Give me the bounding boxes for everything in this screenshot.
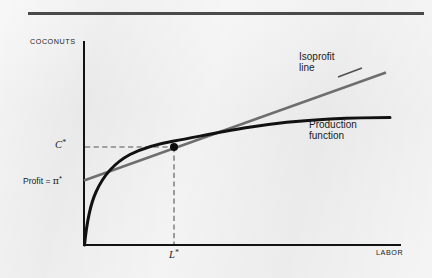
isoprofit-label-leader <box>338 68 362 77</box>
profit-intercept-label: Profit = π* <box>23 175 62 186</box>
profit-star-glyph: * <box>59 174 62 183</box>
profit-prefix-text: Profit = <box>23 176 53 186</box>
optimum-point-marker <box>170 143 178 151</box>
isoprofit-line-label-row1: Isoprofit <box>299 51 335 62</box>
production-function-label-row2: function <box>309 130 357 141</box>
y-axis-tick-label-cstar: C* <box>55 139 66 151</box>
lstar-star-glyph: * <box>175 248 179 257</box>
cstar-letter: C <box>55 139 62 150</box>
production-function-label: Production function <box>309 119 357 141</box>
x-axis-tick-label-lstar: L* <box>169 249 179 261</box>
isoprofit-line-label: Isoprofit line <box>299 51 335 73</box>
figure-canvas: COCONUTS LABOR Isoprofit line Production… <box>0 0 432 278</box>
cstar-star-glyph: * <box>62 138 66 147</box>
isoprofit-line-label-row2: line <box>299 62 335 73</box>
y-axis-label: COCONUTS <box>30 38 76 46</box>
x-axis-label: LABOR <box>376 249 403 257</box>
production-function-label-row1: Production <box>309 119 357 130</box>
